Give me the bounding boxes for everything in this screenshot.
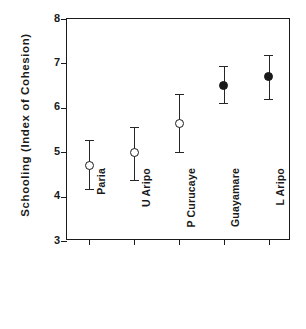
error-bar-cap-upper: [219, 66, 228, 67]
data-point-marker[interactable]: [130, 148, 139, 157]
x-axis-tick: [179, 239, 180, 245]
y-axis-title: Schooling (Index of Cohesion): [14, 0, 36, 250]
x-axis-tick-label: Paria: [94, 168, 108, 248]
y-axis-tick: [61, 241, 67, 242]
error-bar-cap-upper: [85, 140, 94, 141]
error-bar-cap-upper: [175, 94, 184, 95]
y-axis-tick-label: 6: [46, 101, 60, 112]
error-bar-cap-upper: [264, 55, 273, 56]
x-axis-tick-label: U Aripo: [139, 168, 153, 248]
error-bar-cap-lower: [175, 152, 184, 153]
x-axis-tick: [89, 239, 90, 245]
data-point-marker[interactable]: [85, 161, 94, 170]
y-axis-tick: [61, 152, 67, 153]
x-axis-tick: [269, 239, 270, 245]
y-axis-tick: [61, 19, 67, 20]
data-point-marker[interactable]: [219, 81, 228, 90]
data-point-marker[interactable]: [175, 119, 184, 128]
y-axis-tick-label: 3: [46, 235, 60, 246]
error-bar-cap-lower: [264, 99, 273, 100]
y-axis-tick: [61, 63, 67, 64]
x-axis-tick-label: Guayamare: [228, 168, 242, 248]
y-axis-tick-label: 5: [46, 146, 60, 157]
x-axis-tick-label: P Curucaye: [184, 168, 198, 248]
error-bar-cap-lower: [219, 103, 228, 104]
x-axis-tick-label: L Aripo: [273, 168, 287, 248]
error-bar-cap-lower: [130, 180, 139, 181]
y-axis-tick: [61, 108, 67, 109]
error-bar-cap-upper: [130, 127, 139, 128]
x-axis-tick: [224, 239, 225, 245]
scatter-plot-figure: Schooling (Index of Cohesion) 345678 Par…: [0, 0, 306, 329]
error-bar-cap-lower: [85, 189, 94, 190]
y-axis-tick: [61, 197, 67, 198]
y-axis-tick-label: 8: [46, 13, 60, 24]
y-axis-tick-labels: 345678: [38, 0, 60, 329]
y-axis-tick-label: 4: [46, 190, 60, 201]
x-axis-tick: [134, 239, 135, 245]
data-point-marker[interactable]: [264, 72, 273, 81]
y-axis-tick-label: 7: [46, 57, 60, 68]
